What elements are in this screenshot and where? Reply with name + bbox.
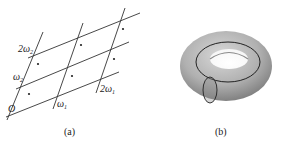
lattice-diagram (6, 8, 140, 120)
figure-svg: O ω1 2ω1 ω2 2ω2 (0, 0, 283, 148)
figure: O ω1 2ω1 ω2 2ω2 (a) (b) (0, 0, 283, 148)
lattice-point (28, 93, 30, 95)
caption-a: (a) (64, 126, 75, 137)
omega2-label: ω2 (13, 71, 23, 83)
lattice-point (122, 28, 124, 30)
two-omega1-label: 2ω1 (100, 83, 115, 95)
lattice-point (113, 58, 115, 60)
lattice-point (80, 44, 82, 46)
lattice-point (37, 63, 39, 65)
two-omega2-label: 2ω2 (18, 43, 33, 55)
torus-meridian-cycle (203, 77, 217, 103)
origin-label: O (8, 103, 15, 114)
lattice-line-top (28, 13, 140, 58)
lattice-point (71, 75, 73, 77)
torus-diagram (180, 31, 272, 103)
omega1-label: ω1 (57, 98, 67, 110)
caption-b: (b) (215, 126, 227, 137)
